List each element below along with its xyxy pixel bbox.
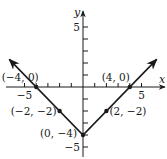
point-marker [57,109,61,113]
y-tick-label: 5 [73,21,80,33]
point-marker [104,109,108,113]
x-axis-label: x [159,73,166,86]
point-marker [81,133,85,137]
graph-of-absolute-value-function: x y −55 5−5 (−4, 0)(4, 0)(−2, −2)(2, −2)… [0,0,167,159]
point-label: (4, 0) [102,71,130,83]
point-label: (2, −2) [109,105,146,117]
point-marker [34,85,38,89]
labeled-point: (−4, 0) [2,71,39,89]
x-tick-label: 5 [138,89,145,101]
point-label: (−2, −2) [11,105,57,117]
point-label: (−4, 0) [2,71,39,83]
y-tick-label: −5 [65,141,80,153]
labeled-point: (−2, −2) [11,105,62,117]
labeled-point: (0, −4) [40,127,85,139]
x-tick-label: −5 [17,89,32,101]
point-marker [128,85,132,89]
point-label: (0, −4) [40,127,77,139]
y-axis-label: y [73,6,81,19]
labeled-points: (−4, 0)(4, 0)(−2, −2)(2, −2)(0, −4) [2,71,147,139]
labeled-point: (2, −2) [104,105,146,117]
